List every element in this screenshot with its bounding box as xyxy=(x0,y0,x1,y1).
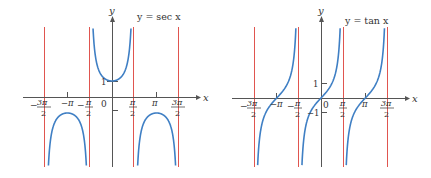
x-tick-neg-pi-2-minus: − xyxy=(77,100,85,110)
y-axis-arrow-icon xyxy=(319,16,324,22)
x-tick-pi-2-num: π xyxy=(129,98,136,107)
y-tick-neg-1: −1 xyxy=(307,108,320,118)
x-tick-3pi-2-den: 2 xyxy=(384,110,389,119)
x-tick-neg-pi: −π xyxy=(61,98,74,108)
curve-branch xyxy=(48,113,86,166)
x-tick-neg-3pi-2-num: 3π xyxy=(37,98,48,107)
x-tick-neg-pi: −π xyxy=(270,99,283,109)
tan-axes xyxy=(232,20,405,167)
sec-axes xyxy=(23,20,196,167)
x-tick-pi: π xyxy=(151,98,158,108)
sec-title: y = sec x xyxy=(136,11,181,22)
x-tick-0: 0 xyxy=(101,99,107,109)
figure-root: y x y = sec x 1 0 − 3π 2 −π − π 2 π 2 π … xyxy=(0,0,431,178)
y-axis-label: y xyxy=(108,5,115,16)
x-axis-arrow-icon xyxy=(196,95,201,100)
x-tick-neg-pi-2-den: 2 xyxy=(86,109,91,118)
y-axis-label: y xyxy=(317,5,324,16)
curve-branch xyxy=(138,113,176,166)
x-tick-pi-2-den: 2 xyxy=(130,109,135,118)
tan-chart: y x y = tan x 1 −1 0 − 3π 2 −π − π 2 π 2… xyxy=(232,5,418,167)
x-tick-3pi-2-num: 3π xyxy=(172,98,183,107)
x-tick-3pi-2-num: 3π xyxy=(381,99,392,108)
sec-chart: y x y = sec x 1 0 − 3π 2 −π − π 2 π 2 π … xyxy=(23,5,209,167)
trig-graphs-figure: y x y = sec x 1 0 − 3π 2 −π − π 2 π 2 π … xyxy=(0,0,431,178)
x-tick-neg-3pi-2-den: 2 xyxy=(41,109,46,118)
x-tick-0: 0 xyxy=(323,100,329,110)
tan-title: y = tan x xyxy=(344,15,389,26)
x-tick-pi: π xyxy=(361,99,368,109)
x-axis-arrow-icon xyxy=(405,96,410,101)
x-tick-pi-2-den: 2 xyxy=(340,110,345,119)
x-axis-label: x xyxy=(412,93,418,104)
x-tick-neg-pi-2-minus: − xyxy=(287,101,295,111)
y-tick-1: 1 xyxy=(101,77,106,87)
x-tick-3pi-2-den: 2 xyxy=(175,109,180,118)
x-tick-neg-3pi-2-den: 2 xyxy=(251,110,256,119)
x-tick-neg-pi-2-den: 2 xyxy=(295,110,300,119)
y-tick-1: 1 xyxy=(313,79,318,89)
x-tick-neg-3pi-2-num: 3π xyxy=(247,99,258,108)
x-tick-neg-pi-2-num: π xyxy=(85,98,92,107)
y-axis-arrow-icon xyxy=(110,16,115,22)
x-tick-pi-2-num: π xyxy=(339,99,346,108)
x-axis-label: x xyxy=(203,92,209,103)
x-tick-neg-pi-2-num: π xyxy=(294,99,301,108)
